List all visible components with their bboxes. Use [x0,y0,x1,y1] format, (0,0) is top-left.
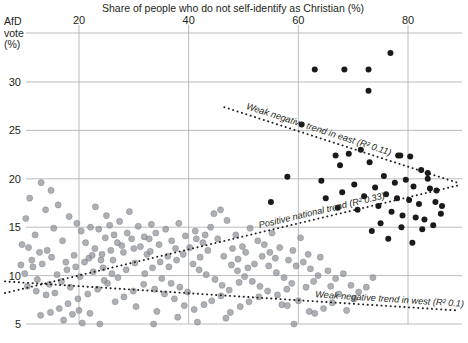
data-point [180,251,186,257]
data-point [52,290,58,296]
data-point [410,184,416,190]
data-point [175,314,181,320]
data-point [23,215,29,221]
data-point [126,209,132,215]
data-point [55,202,61,208]
x-tick-label: 40 [183,14,195,26]
data-point [51,225,57,231]
data-point [333,153,339,159]
data-point [416,201,422,207]
data-point [48,254,54,260]
data-point [215,236,221,242]
data-point [203,272,209,278]
data-point [92,245,98,251]
data-point [370,274,376,280]
data-point [22,271,28,277]
data-point [217,207,223,213]
data-point [137,243,143,249]
data-point [44,247,50,253]
data-point [305,251,311,257]
data-point [71,252,77,258]
data-point [65,301,71,307]
data-point [243,249,249,255]
data-point [110,257,116,263]
data-point [265,288,271,294]
y-tick-label: 25 [9,124,21,136]
data-point [246,299,252,305]
data-point [363,284,369,290]
data-point [274,292,280,298]
data-point [42,207,48,213]
data-point [177,284,183,290]
data-point [300,259,306,265]
data-point [150,321,156,327]
data-point [303,284,309,290]
data-point [297,235,303,241]
data-point [312,310,318,316]
data-point [312,66,318,72]
y-tick-label: 10 [9,270,21,282]
chart-root: Weak negative trend in east (R² 0.11)Pos… [0,0,468,343]
data-point [289,280,295,286]
data-point [284,174,290,180]
data-point [285,257,291,263]
data-point [96,226,102,232]
data-point [172,245,178,251]
data-point [272,255,278,261]
data-point [351,182,357,188]
x-tick-label: 20 [73,14,85,26]
data-point [81,259,87,265]
data-point [311,278,317,284]
y-tick-label: 30 [9,76,21,88]
data-point [249,278,255,284]
data-point [181,303,187,309]
data-point [43,292,49,298]
data-point [111,232,117,238]
data-point [421,216,427,222]
data-point [291,321,297,327]
data-point [48,187,54,193]
data-point [372,185,378,191]
data-point [82,240,88,246]
data-point [98,257,104,263]
data-point [77,273,83,279]
data-point [392,180,398,186]
data-point [400,213,406,219]
data-point [409,240,415,246]
data-point [39,261,45,267]
data-point [192,228,198,234]
data-point [247,225,253,231]
data-point [403,177,409,183]
data-point [419,226,425,232]
data-point [56,305,62,311]
data-point [108,247,114,253]
data-point [245,265,251,271]
data-point [141,281,147,287]
data-point [101,277,107,283]
data-point [228,262,234,268]
data-point [323,195,329,201]
data-point [439,203,445,209]
data-point [38,180,44,186]
y-tick-label: 15 [9,221,21,233]
data-point [367,159,373,165]
data-point [25,244,31,250]
data-point [124,230,130,236]
y-tick-label: 5 [15,318,21,330]
data-point [425,176,431,182]
data-point [27,195,33,201]
data-point [343,307,349,313]
data-point [307,266,313,272]
data-point [261,242,267,248]
data-point [257,283,263,289]
data-point [266,263,272,269]
data-point [212,276,218,282]
data-point [102,235,108,241]
x-axis-title: Share of people who do not self-identify… [102,2,364,14]
data-point [226,287,232,293]
data-point [47,309,53,315]
data-point [184,289,190,295]
data-point [69,311,75,317]
data-point [221,253,227,259]
data-point [163,226,169,232]
